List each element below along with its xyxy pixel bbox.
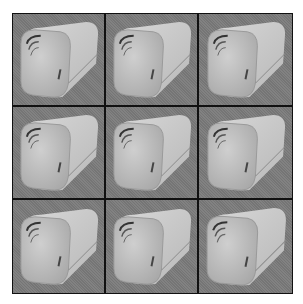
tube-render xyxy=(106,14,197,105)
tube-render xyxy=(13,14,104,105)
tube-render xyxy=(106,107,197,198)
tube-render xyxy=(199,107,292,198)
tube-render xyxy=(199,200,292,293)
grid-cell-r3c2 xyxy=(106,200,197,293)
grid-cell-r3c3 xyxy=(199,200,292,293)
tube-render xyxy=(199,14,292,105)
grid-cell-r2c3 xyxy=(199,107,292,198)
grid-cell-r1c2 xyxy=(106,14,197,105)
image-grid xyxy=(12,13,293,294)
tube-render xyxy=(106,200,197,293)
grid-cell-r2c1 xyxy=(13,107,104,198)
grid-cell-r3c1 xyxy=(13,200,104,293)
tube-render xyxy=(13,107,104,198)
tube-render xyxy=(13,200,104,293)
grid-cell-r1c1 xyxy=(13,14,104,105)
grid-cell-r2c2 xyxy=(106,107,197,198)
grid-cell-r1c3 xyxy=(199,14,292,105)
